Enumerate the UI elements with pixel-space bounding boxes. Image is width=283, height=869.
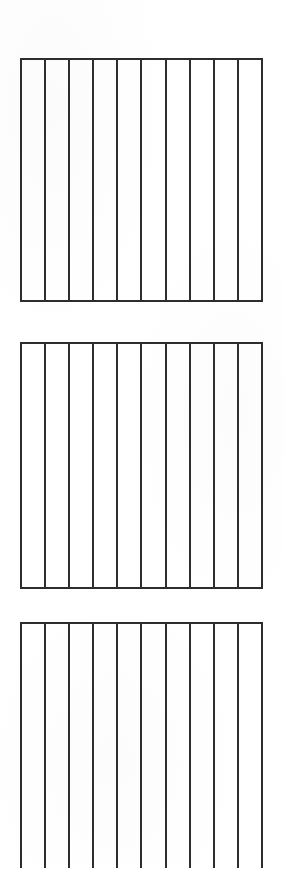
- grid-cell: [215, 60, 239, 300]
- grid-block-1: [20, 58, 263, 302]
- grid-cell: [94, 344, 118, 587]
- grid-cell: [70, 60, 94, 300]
- grid-cell: [239, 624, 261, 868]
- grid-cell: [22, 624, 46, 868]
- grid-cell: [215, 624, 239, 868]
- grid-cell: [191, 344, 215, 587]
- grid-cell: [46, 344, 70, 587]
- grid-cell: [239, 344, 261, 587]
- grid-cell: [167, 60, 191, 300]
- grid-cell: [167, 344, 191, 587]
- grid-cell: [22, 60, 46, 300]
- grid-block-2: [20, 342, 263, 589]
- grid-cell: [142, 60, 166, 300]
- grid-cell: [142, 344, 166, 587]
- grid-cell: [94, 60, 118, 300]
- grid-cell: [22, 344, 46, 587]
- grid-block-3: [20, 622, 263, 868]
- grid-cell: [94, 624, 118, 868]
- grid-cell: [167, 624, 191, 868]
- grid-cell: [191, 60, 215, 300]
- grid-cell: [118, 624, 142, 868]
- grid-cell: [46, 60, 70, 300]
- grid-cell: [70, 624, 94, 868]
- grid-cell: [118, 60, 142, 300]
- grid-cell: [239, 60, 261, 300]
- grid-cell: [142, 624, 166, 868]
- grid-cell: [70, 344, 94, 587]
- grid-cell: [191, 624, 215, 868]
- grid-cell: [215, 344, 239, 587]
- grid-cell: [118, 344, 142, 587]
- grid-cell: [46, 624, 70, 868]
